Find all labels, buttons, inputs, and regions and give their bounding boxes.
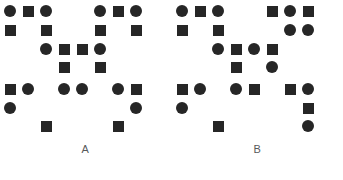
pattern-circle <box>230 83 242 95</box>
pattern-square <box>95 25 106 36</box>
pattern-circle <box>22 83 34 95</box>
shape-pattern-figure: A B <box>0 0 343 180</box>
pattern-square <box>231 62 242 73</box>
pattern-square <box>177 25 188 36</box>
pattern-circle <box>4 102 16 114</box>
pattern-square <box>177 84 188 95</box>
pattern-square <box>113 121 124 132</box>
pattern-circle <box>76 83 88 95</box>
pattern-square <box>267 6 278 17</box>
pattern-circle <box>248 43 260 55</box>
pattern-circle <box>284 5 296 17</box>
pattern-circle <box>212 43 224 55</box>
pattern-square <box>303 6 314 17</box>
pattern-square <box>23 6 34 17</box>
pattern-circle <box>212 5 224 17</box>
pattern-square <box>131 84 142 95</box>
pattern-circle <box>284 24 296 36</box>
pattern-circle <box>40 5 52 17</box>
pattern-circle <box>194 83 206 95</box>
pattern-circle <box>112 83 124 95</box>
pattern-circle <box>94 43 106 55</box>
pattern-square <box>41 121 52 132</box>
pattern-panel-b: B <box>172 0 343 180</box>
pattern-square <box>231 44 242 55</box>
pattern-square <box>59 44 70 55</box>
pattern-square <box>59 62 70 73</box>
pattern-circle <box>266 61 278 73</box>
pattern-circle <box>4 5 16 17</box>
pattern-circle <box>130 5 142 17</box>
pattern-square <box>303 103 314 114</box>
pattern-square <box>113 6 124 17</box>
pattern-square <box>213 121 224 132</box>
pattern-panel-a: A <box>0 0 171 180</box>
shape-layer-b <box>172 0 343 145</box>
panel-label-a: A <box>0 143 171 155</box>
pattern-circle <box>176 5 188 17</box>
panel-label-b: B <box>172 143 343 155</box>
pattern-square <box>5 25 16 36</box>
pattern-square <box>5 84 16 95</box>
pattern-square <box>249 84 260 95</box>
pattern-square <box>131 25 142 36</box>
pattern-square <box>41 25 52 36</box>
pattern-circle <box>130 102 142 114</box>
pattern-square <box>213 25 224 36</box>
pattern-square <box>195 6 206 17</box>
pattern-circle <box>302 24 314 36</box>
pattern-circle <box>302 120 314 132</box>
pattern-circle <box>94 5 106 17</box>
pattern-circle <box>302 83 314 95</box>
pattern-square <box>95 62 106 73</box>
pattern-circle <box>40 43 52 55</box>
pattern-square <box>77 44 88 55</box>
pattern-square <box>285 84 296 95</box>
shape-layer-a <box>0 0 171 145</box>
pattern-circle <box>58 83 70 95</box>
pattern-square <box>267 44 278 55</box>
pattern-circle <box>176 102 188 114</box>
